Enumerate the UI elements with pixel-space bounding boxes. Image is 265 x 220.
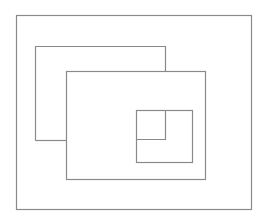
nested-rectangles-diagram — [0, 0, 265, 220]
background — [0, 0, 265, 220]
